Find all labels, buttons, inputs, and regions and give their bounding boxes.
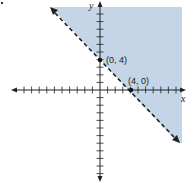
- x-axis-label: x: [180, 93, 186, 104]
- x-axis-left-arrow-icon: [11, 88, 17, 93]
- y-axis-down-arrow-icon: [98, 176, 103, 182]
- y-axis-label: y: [88, 0, 94, 11]
- question-mark-dot: [1, 2, 3, 4]
- point-0-4-label: (0, 4): [106, 55, 127, 65]
- point-4-0-label: (4, 0): [128, 76, 149, 86]
- point-4-0: [129, 88, 133, 92]
- shaded-region: [51, 7, 182, 143]
- y-axis-up-arrow-icon: [98, 1, 103, 7]
- x-axis-right-arrow-icon: [180, 88, 186, 93]
- point-0-4: [98, 58, 102, 62]
- inequality-graph: x y (0, 4) (4, 0): [0, 0, 189, 183]
